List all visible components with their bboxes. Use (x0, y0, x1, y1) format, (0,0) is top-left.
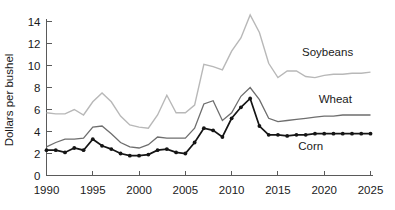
y-tick-label: 6 (34, 104, 40, 116)
data-point-corn (165, 147, 169, 151)
y-tick-label: 12 (28, 38, 41, 50)
data-point-corn (109, 147, 113, 151)
data-point-corn (350, 132, 354, 136)
data-point-corn (91, 137, 95, 141)
data-point-corn (156, 148, 160, 152)
y-tick-label: 2 (34, 148, 40, 160)
x-tick-label: 2015 (265, 184, 291, 196)
data-point-corn (239, 105, 243, 109)
chart-figure: 02468101214 1990199520002005201020152020… (0, 0, 395, 210)
y-tick-label: 0 (34, 170, 40, 182)
data-point-corn (137, 154, 141, 158)
x-tick-label: 1990 (34, 184, 60, 196)
data-point-corn (258, 124, 262, 128)
y-tick-label: 14 (28, 16, 41, 28)
y-tick-label: 10 (28, 60, 41, 72)
x-axis-tick-labels: 19901995200020052010201520202025 (34, 184, 384, 196)
x-tick-label: 1995 (80, 184, 106, 196)
data-point-corn (174, 151, 178, 155)
data-point-corn (193, 141, 197, 145)
data-point-corn (313, 132, 317, 136)
y-tick-label: 4 (34, 126, 41, 138)
data-point-corn (295, 133, 299, 137)
x-tick-label: 2000 (126, 184, 152, 196)
x-axis-ticks (47, 171, 371, 176)
x-tick-label: 2005 (173, 184, 199, 196)
data-point-corn (100, 144, 104, 148)
data-point-corn (72, 146, 76, 150)
data-point-corn (146, 153, 150, 157)
x-tick-label: 2025 (358, 184, 384, 196)
y-axis-ticks (47, 22, 52, 176)
data-point-corn (341, 132, 345, 136)
data-point-corn (183, 152, 187, 156)
series-line-soybeans (47, 15, 371, 128)
data-point-corn (285, 134, 289, 138)
data-point-corn (248, 97, 252, 101)
data-point-corn (202, 126, 206, 130)
line-chart: 02468101214 1990199520002005201020152020… (0, 0, 395, 210)
x-tick-label: 2020 (311, 184, 337, 196)
data-point-corn (54, 148, 58, 152)
data-point-corn (128, 154, 132, 158)
x-tick-label: 2010 (219, 184, 245, 196)
data-point-corn (267, 133, 271, 137)
data-point-corn (304, 133, 308, 137)
series-label-corn: Corn (298, 140, 323, 152)
data-point-corn (359, 132, 363, 136)
y-axis-tick-labels: 02468101214 (28, 16, 41, 182)
data-point-corn (230, 116, 234, 120)
data-series-layer (47, 15, 371, 156)
data-point-corn (63, 151, 67, 155)
data-point-corn (332, 132, 336, 136)
series-label-wheat: Wheat (319, 93, 353, 105)
data-point-corn (369, 132, 373, 136)
data-point-corn (220, 135, 224, 139)
data-point-corn (45, 148, 49, 152)
series-label-soybeans: Soybeans (302, 46, 353, 58)
data-point-corn (82, 148, 86, 152)
y-tick-label: 8 (34, 82, 40, 94)
data-point-corn (211, 129, 215, 133)
y-axis-title: Dollars per bushel (3, 54, 15, 147)
data-point-corn (119, 152, 123, 156)
data-point-corn (322, 132, 326, 136)
data-point-corn (276, 133, 280, 137)
